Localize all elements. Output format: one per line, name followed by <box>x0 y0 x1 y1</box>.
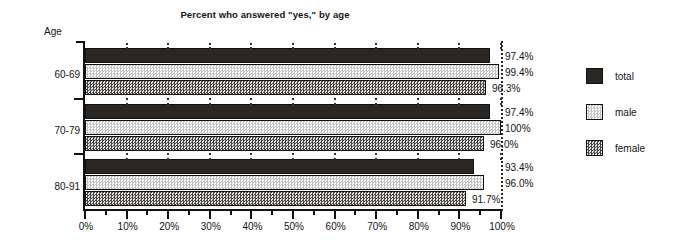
gridline-60-band-2 <box>334 153 336 160</box>
gridline-100-band-2 <box>500 153 502 160</box>
gridline-70-band-1 <box>375 98 377 105</box>
x-tick-minor-95 <box>479 211 481 215</box>
value-label-male-80-91: 96.0% <box>505 178 533 189</box>
x-tick-minor-25 <box>188 211 190 215</box>
gridline-90-band-2 <box>458 153 460 160</box>
x-tick-minor-5 <box>105 211 107 215</box>
bar-female-70-79 <box>85 136 484 151</box>
gridline-100-band-1 <box>500 98 502 105</box>
gridline-30-band-1 <box>209 98 211 105</box>
legend-swatch-male-icon <box>586 104 603 120</box>
x-tick-major-90 <box>458 211 460 219</box>
gridline-70-band-0 <box>375 43 377 49</box>
x-tick-minor-35 <box>230 211 232 215</box>
gridline-50-band-2 <box>292 153 294 160</box>
category-label-1: 70-79 <box>26 125 80 136</box>
x-tick-label-50: 50% <box>272 221 316 232</box>
x-tick-major-20 <box>167 211 169 219</box>
x-tick-label-60: 60% <box>314 221 358 232</box>
value-label-total-70-79: 97.4% <box>505 107 533 118</box>
x-tick-label-30: 30% <box>189 221 233 232</box>
value-label-female-80-91: 91.7% <box>472 194 500 205</box>
x-tick-minor-55 <box>313 211 315 215</box>
bar-male-70-79 <box>85 120 501 135</box>
x-tick-label-10: 10% <box>106 221 150 232</box>
gridline-10-band-1 <box>126 98 128 105</box>
value-label-male-70-79: 100% <box>505 123 531 134</box>
group-separator-1 <box>74 153 85 155</box>
x-tick-major-0 <box>84 211 86 219</box>
gridline-30-band-0 <box>209 43 211 49</box>
reference-line-100 <box>501 41 503 211</box>
x-tick-minor-75 <box>396 211 398 215</box>
gridline-70-band-2 <box>375 153 377 160</box>
legend-label-female: female <box>615 143 645 154</box>
x-tick-label-80: 80% <box>397 221 441 232</box>
gridline-40-band-2 <box>250 153 252 160</box>
x-tick-minor-85 <box>438 211 440 215</box>
gridline-40-band-0 <box>250 43 252 49</box>
bar-female-80-91 <box>85 191 466 206</box>
category-label-0: 60-69 <box>26 69 80 80</box>
bar-total-60-69 <box>85 48 490 63</box>
gridline-90-band-0 <box>458 43 460 49</box>
gridline-20-band-2 <box>167 153 169 160</box>
gridline-80-band-0 <box>417 43 419 49</box>
x-tick-minor-15 <box>146 211 148 215</box>
gridline-60-band-0 <box>334 43 336 49</box>
value-label-male-60-69: 99.4% <box>505 67 533 78</box>
gridline-80-band-2 <box>417 153 419 160</box>
x-tick-label-40: 40% <box>230 221 274 232</box>
legend-label-total: total <box>615 71 634 82</box>
category-label-2: 80-91 <box>26 181 80 192</box>
bar-chart: Percent who answered "yes," by age Age 6… <box>0 0 683 248</box>
x-tick-label-70: 70% <box>355 221 399 232</box>
x-tick-minor-65 <box>354 211 356 215</box>
bar-female-60-69 <box>85 80 486 95</box>
x-tick-major-80 <box>417 211 419 219</box>
gridline-60-band-1 <box>334 98 336 105</box>
x-tick-major-70 <box>375 211 377 219</box>
bar-total-70-79 <box>85 104 490 119</box>
gridline-90-band-1 <box>458 98 460 105</box>
x-tick-major-30 <box>209 211 211 219</box>
x-tick-label-0: 0% <box>64 221 108 232</box>
x-tick-minor-45 <box>271 211 273 215</box>
bar-total-80-91 <box>85 159 474 174</box>
gridline-20-band-0 <box>167 43 169 49</box>
gridline-80-band-1 <box>417 98 419 105</box>
chart-title: Percent who answered "yes," by age <box>0 9 530 20</box>
value-label-total-80-91: 93.4% <box>505 162 533 173</box>
legend-swatch-total-icon <box>586 68 603 84</box>
gridline-40-band-1 <box>250 98 252 105</box>
x-tick-major-50 <box>292 211 294 219</box>
value-label-total-60-69: 97.4% <box>505 51 533 62</box>
x-tick-major-10 <box>126 211 128 219</box>
y-axis-title: Age <box>44 26 62 37</box>
gridline-20-band-1 <box>167 98 169 105</box>
gridline-50-band-0 <box>292 43 294 49</box>
value-label-female-60-69: 96.3% <box>492 83 520 94</box>
x-tick-major-60 <box>334 211 336 219</box>
x-tick-major-40 <box>250 211 252 219</box>
bar-male-60-69 <box>85 64 499 79</box>
x-tick-label-100: 100% <box>480 221 524 232</box>
legend-label-male: male <box>615 107 637 118</box>
x-tick-major-100 <box>500 211 502 219</box>
group-separator-0 <box>74 98 85 100</box>
legend-swatch-female-icon <box>586 140 603 156</box>
gridline-10-band-2 <box>126 153 128 160</box>
x-tick-label-20: 20% <box>147 221 191 232</box>
bar-male-80-91 <box>85 175 484 190</box>
gridline-30-band-2 <box>209 153 211 160</box>
gridline-50-band-1 <box>292 98 294 105</box>
gridline-10-band-0 <box>126 43 128 49</box>
value-label-female-70-79: 96.0% <box>490 139 518 150</box>
gridline-100-band-0 <box>500 43 502 49</box>
x-tick-label-90: 90% <box>438 221 482 232</box>
